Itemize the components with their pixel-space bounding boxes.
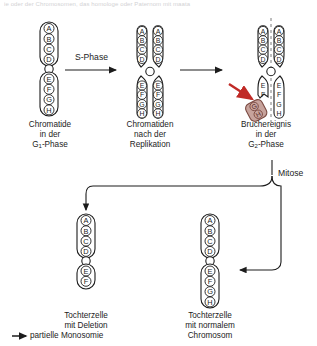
stage3-phase-suffix: -Phase — [258, 140, 284, 149]
stage2-caption: Chromatiden nach der Replikation — [104, 120, 196, 151]
stage3-centromere — [267, 67, 275, 75]
band-letter: C — [277, 46, 282, 53]
band-letter: B — [140, 37, 145, 44]
band-letter: E — [261, 82, 266, 89]
band-letter: A — [156, 28, 161, 35]
stage3-caption-line1: Bruchereignis — [216, 120, 316, 130]
band-letter: H — [156, 110, 161, 117]
band-letter: D — [261, 56, 266, 63]
band-letter: G — [155, 101, 160, 108]
stage1-caption-line1: Chromatide — [0, 120, 100, 130]
band-letter: C — [207, 237, 213, 246]
band-letter: G — [276, 101, 281, 108]
band-letter: C — [140, 46, 145, 53]
daughter-right-caption-line2: mit normalem — [160, 321, 260, 331]
band-letter: B — [277, 37, 282, 44]
band-letter: F — [261, 91, 265, 98]
band-letter: F — [84, 277, 89, 286]
stage2-caption-line2: nach der — [104, 130, 196, 140]
diagram-page: ie oder der Chromosomen, das homologe od… — [0, 0, 317, 346]
stage1-caption-line3: G1-Phase — [0, 140, 100, 151]
band-letter: B — [47, 35, 52, 44]
chromosome-diagram-canvas: A B C D E F G H — [0, 0, 317, 346]
band-letter: E — [84, 267, 89, 276]
band-letter: A — [261, 28, 266, 35]
band-letter: F — [47, 85, 52, 94]
band-letter: A — [84, 216, 89, 225]
daughter-right-caption: Tochterzelle mit normalem Chromosom — [160, 311, 260, 342]
band-letter: H — [46, 106, 51, 115]
band-letter: F — [140, 91, 144, 98]
band-letter: G — [139, 101, 144, 108]
band-letter: E — [277, 82, 282, 89]
stage2-caption-line1: Chromatiden — [104, 120, 196, 130]
stage1-phase-suffix: -Phase — [42, 140, 68, 149]
daughter-left-caption: Tochterzelle mit Deletion — [36, 311, 136, 331]
s-phase-label: S-Phase — [75, 52, 108, 62]
stage3-caption-line3: G2-Phase — [216, 140, 316, 151]
daughter-right-caption-line3: Chromosom — [160, 331, 260, 341]
mitose-branch-left — [86, 176, 272, 210]
band-letter: E — [208, 267, 213, 276]
band-letter: A — [47, 24, 52, 33]
band-letter: D — [140, 56, 145, 63]
band-letter: D — [277, 56, 282, 63]
band-letter: B — [156, 37, 161, 44]
band-letter: A — [277, 28, 282, 35]
daughter-left-caption-line2: mit Deletion — [36, 321, 136, 331]
stage2-centromere — [146, 67, 154, 75]
band-letter: G — [46, 95, 52, 104]
band-letter: H — [207, 298, 212, 307]
band-letter: D — [83, 247, 88, 256]
daughter-left-caption-line1: Tochterzelle — [36, 311, 136, 321]
band-letter: H — [277, 110, 282, 117]
band-letter: B — [84, 227, 89, 236]
band-letter: F — [277, 91, 281, 98]
daughter-right-caption-line1: Tochterzelle — [160, 311, 260, 321]
band-letter: A — [208, 216, 213, 225]
band-letter: F — [208, 277, 213, 286]
band-letter: E — [156, 82, 161, 89]
band-letter: B — [208, 227, 213, 236]
band-letter: C — [156, 46, 161, 53]
band-letter: C — [261, 46, 266, 53]
mitose-label: Mitose — [278, 168, 303, 178]
stage3-chromosome: A B C D A B C D E F — [229, 18, 284, 123]
band-letter: D — [156, 56, 161, 63]
partielle-monosomie-note: partielle Monosomie — [30, 331, 103, 341]
daughter-right-chromosome: A B C D E F G H — [201, 214, 219, 308]
band-letter: C — [46, 45, 52, 54]
stage2-caption-line3: Replikation — [104, 140, 196, 150]
mitose-branch-lines — [86, 160, 281, 270]
band-letter: H — [140, 110, 145, 117]
stage1-chromatid: A B C D E F G H — [40, 22, 58, 116]
band-letter: G — [207, 287, 213, 296]
band-letter: B — [261, 37, 266, 44]
band-letter: E — [47, 75, 52, 84]
break-event-arrow — [229, 84, 252, 99]
stage3-caption-line2: in der — [216, 130, 316, 140]
band-letter: A — [140, 28, 145, 35]
band-letter: F — [156, 91, 160, 98]
stage3-caption: Bruchereignis in der G2-Phase — [216, 120, 316, 152]
stage1-caption: Chromatide in der G1-Phase — [0, 120, 100, 152]
stage2-chromosome: A B C D A B C D E — [137, 26, 163, 119]
band-letter: C — [83, 237, 89, 246]
mitose-branch-right — [240, 176, 281, 270]
band-letter: E — [140, 82, 145, 89]
stage1-caption-line2: in der — [0, 130, 100, 140]
band-letter: D — [46, 55, 51, 64]
band-letter: D — [207, 247, 212, 256]
daughter-left-chromosome: A B C D E F — [77, 214, 95, 289]
